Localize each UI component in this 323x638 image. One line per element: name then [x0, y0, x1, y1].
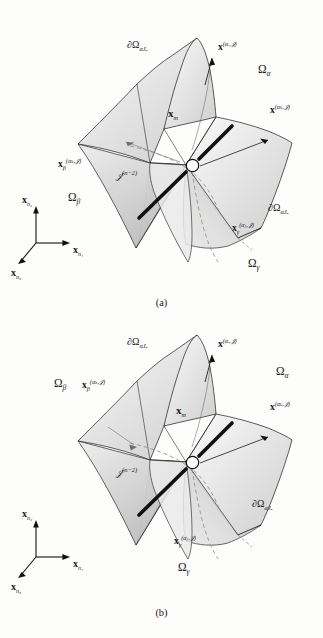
- axis-x3-shaft-b: [21, 557, 36, 575]
- edge-line-b-2: [164, 426, 186, 462]
- diagram-canvas-a: ∂ΩαJₐ x(αᵢ,𝒥) x(αₖ,𝒥) xβ(αₖ,𝒥) xγ(αⱼ,𝒥) …: [0, 0, 323, 300]
- label-node-xm-b: xm: [176, 405, 186, 418]
- axis-x2-arrowhead-a: [33, 206, 39, 214]
- label-domain-gamma-b: Ωγ: [178, 562, 190, 576]
- leader-boundary-bottom-b: [238, 535, 252, 547]
- label-boundary-top-b: ∂ΩαJₐ: [127, 337, 148, 350]
- axis-x1-arrowhead-a: [62, 240, 70, 246]
- label-normal-beta-b: xβ(αₖ,𝒥): [82, 379, 105, 392]
- edge-line-a-2: [164, 129, 186, 165]
- label-domain-gamma-a: Ωγ: [248, 258, 260, 272]
- caption-b: (b): [0, 607, 323, 618]
- label-normal-top-b: x(αᵢ,𝒥): [218, 338, 237, 350]
- label-domain-alpha-b: Ωα: [276, 366, 288, 380]
- label-normal-right-b: x(αₖ,𝒥): [270, 401, 290, 413]
- coordinate-axes-b: [18, 520, 70, 578]
- axis-x3-arrowhead-b: [18, 572, 26, 578]
- label-axis-x3-b: xn₃: [11, 582, 21, 594]
- diagram-canvas-b: ∂ΩαJₐ x(αᵢ,𝒥) x(αₖ,𝒥) xβ(αₖ,𝒥) xγ(αⱼ,𝒥) …: [0, 319, 323, 619]
- label-domain-beta-a: Ωβ: [68, 192, 80, 206]
- axis-x3-shaft-a: [21, 243, 36, 261]
- label-junction-b: 𝒥(n−2): [116, 467, 137, 478]
- figure-panel-b: ∂ΩαJₐ x(αᵢ,𝒥) x(αₖ,𝒥) xβ(αₖ,𝒥) xγ(αⱼ,𝒥) …: [0, 319, 323, 638]
- axis-x2-arrowhead-b: [33, 520, 39, 528]
- label-axis-x1-a: xn₁: [73, 245, 83, 257]
- label-normal-gamma-a: xγ(αⱼ,𝒥): [232, 222, 254, 235]
- label-domain-alpha-a: Ωα: [258, 64, 270, 78]
- surface-geometry-b: [0, 319, 323, 619]
- label-axis-x2-a: xn₂: [22, 195, 32, 207]
- figure-panel-a: ∂ΩαJₐ x(αᵢ,𝒥) x(αₖ,𝒥) xβ(αₖ,𝒥) xγ(αⱼ,𝒥) …: [0, 0, 323, 319]
- label-node-xm-a: xm: [168, 108, 178, 121]
- label-junction-a: 𝒥(n−2): [116, 170, 137, 181]
- surface-geometry-a: [0, 0, 323, 300]
- label-axis-x3-a: xn₃: [11, 268, 21, 280]
- label-normal-right-a: x(αₖ,𝒥): [270, 104, 290, 116]
- label-boundary-top-a: ∂ΩαJₐ: [127, 40, 148, 53]
- label-axis-x2-b: xn₂: [22, 509, 32, 521]
- label-axis-x1-b: xn₁: [73, 559, 83, 571]
- label-normal-beta-a: xβ(αₖ,𝒥): [58, 158, 81, 171]
- junction-node-a: [186, 159, 198, 171]
- junction-node-b: [186, 456, 198, 468]
- caption-a: (a): [0, 297, 323, 308]
- label-boundary-bottom-b: ∂ΩαJₐ: [252, 499, 273, 512]
- label-normal-gamma-b: xγ(αⱼ,𝒥): [174, 535, 196, 548]
- leader-boundary-bottom-a: [238, 238, 252, 250]
- label-boundary-bottom-a: ∂ΩαJₐ: [268, 203, 289, 216]
- axis-x1-arrowhead-b: [62, 554, 70, 560]
- normal-top-arrowhead-b: [209, 355, 215, 363]
- coordinate-axes-a: [18, 206, 70, 264]
- axis-x3-arrowhead-a: [18, 258, 26, 264]
- label-domain-beta-b: Ωβ: [54, 378, 66, 392]
- label-normal-top-a: x(αᵢ,𝒥): [218, 41, 237, 53]
- normal-top-arrowhead-a: [209, 58, 215, 66]
